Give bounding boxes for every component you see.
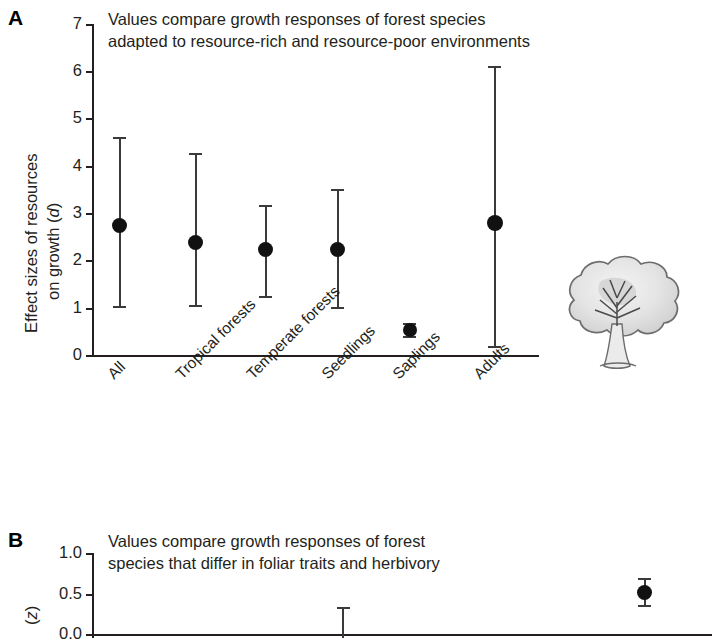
broadleaf-tree-illustration [548, 248, 698, 393]
panel-a-yticklabel-4: 4 [56, 156, 82, 175]
errorbar-cap-top-adults [488, 66, 501, 68]
panel-a-letter: A [8, 6, 23, 30]
panel-a-yticklabel-0: 0 [56, 345, 82, 364]
datapoint-seedlings [330, 242, 345, 257]
datapoint-tropical-forests [188, 235, 203, 250]
panel-a-title-line1: Values compare growth responses of fores… [108, 9, 486, 30]
panel-b-ylabel-symbol: z [22, 611, 40, 619]
panel-a-title-line2: adapted to resource-rich and resource-po… [108, 31, 530, 52]
panel-a-yticklabel-2: 2 [56, 250, 82, 269]
panel-a-ytick-6 [86, 71, 92, 73]
panel-a-yticklabel-6: 6 [56, 61, 82, 80]
datapoint-all [112, 218, 127, 233]
panel-b-ylabel-open: ( [22, 620, 40, 626]
errorbar-cap-bottom-all [113, 306, 126, 308]
panel-a-y-axis [92, 24, 94, 356]
errorbar-tropical-forests [195, 153, 197, 306]
panel-a-yticklabel-3: 3 [56, 203, 82, 222]
panel-b-ytick-0.0 [86, 634, 92, 636]
panel-b-title-line2: species that differ in foliar traits and… [108, 553, 440, 574]
datapoint-saplings [403, 323, 417, 337]
panel-b-y-axis [92, 553, 94, 638]
xaxis-label-all: All [104, 358, 129, 383]
panel-b-datapoint-2 [637, 585, 652, 600]
xaxis-label-seedlings: Seedlings [318, 322, 379, 383]
errorbar-cap-bottom-tropical-forests [189, 305, 202, 307]
errorbar-cap-top-all [113, 137, 126, 139]
panel-a-yticklabel-1: 1 [56, 298, 82, 317]
errorbar-adults [494, 66, 496, 347]
errorbar-cap-bottom-temperate-forests [259, 296, 272, 298]
panel-a-ytick-1 [86, 308, 92, 310]
panel-b-letter: B [8, 528, 23, 552]
panel-b-errorbar-1 [342, 607, 344, 638]
panel-a-yticklabel-5: 5 [56, 108, 82, 127]
panel-b-ytick-1.0 [86, 553, 92, 555]
errorbar-cap-top-tropical-forests [189, 153, 202, 155]
panel-b-errorbar-cap-bottom-2 [638, 605, 651, 607]
panel-b-ylabel: (z) [22, 606, 41, 625]
panel-a-ytick-2 [86, 260, 92, 262]
errorbar-cap-bottom-seedlings [331, 307, 344, 309]
panel-b-zero-line [92, 634, 712, 636]
panel-a-ytick-5 [86, 118, 92, 120]
datapoint-temperate-forests [258, 242, 273, 257]
panel-b-yticklabel-0.0: 0.0 [40, 624, 82, 643]
panel-a-ytick-3 [86, 213, 92, 215]
panel-b-title-line1: Values compare growth responses of fores… [108, 531, 425, 552]
panel-b-ylabel-close: ) [22, 606, 40, 612]
panel-b-ytick-0.5 [86, 594, 92, 596]
errorbar-cap-top-temperate-forests [259, 205, 272, 207]
panel-a-ytick-7 [86, 24, 92, 26]
panel-a-yticklabel-7: 7 [56, 14, 82, 33]
panel-a-ytick-0 [86, 355, 92, 357]
panel-a-ylabel-line1: Effect sizes of resources [22, 154, 41, 333]
panel-a-ytick-4 [86, 166, 92, 168]
datapoint-adults [487, 215, 503, 231]
panel-b-yticklabel-0.5: 0.5 [40, 584, 82, 603]
errorbar-cap-top-seedlings [331, 189, 344, 191]
panel-b-yticklabel-1.0: 1.0 [40, 543, 82, 562]
panel-b-errorbar-cap-top-2 [638, 578, 651, 580]
panel-a-x-axis [92, 355, 539, 357]
